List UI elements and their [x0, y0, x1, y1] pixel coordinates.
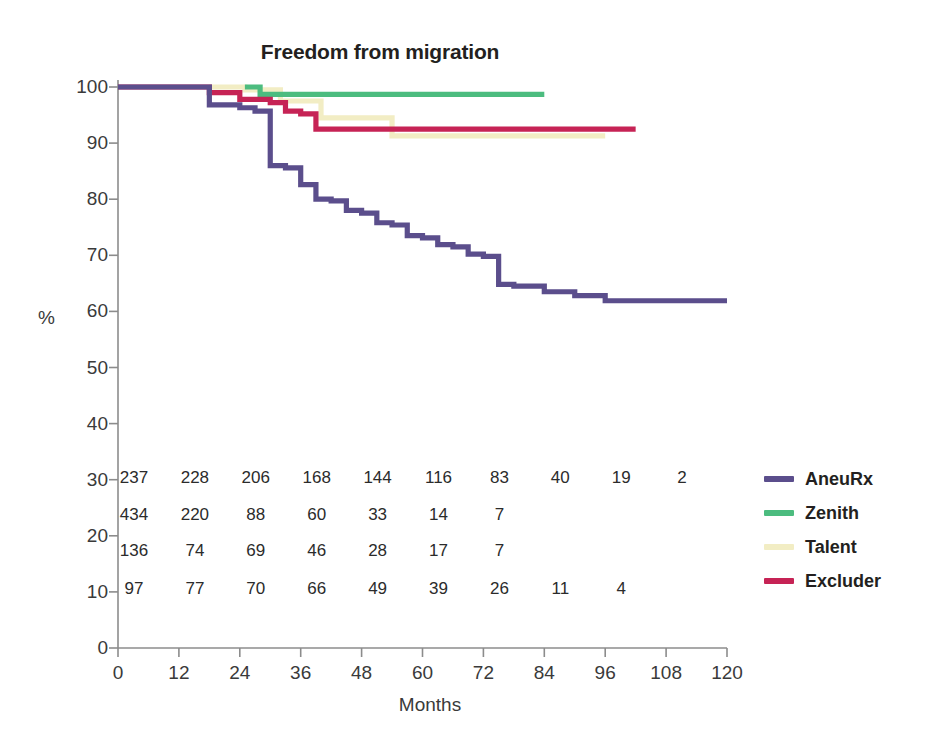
- risk-count-excluder-m72: 26: [490, 579, 509, 599]
- risk-count-excluder-m24: 70: [246, 579, 265, 599]
- legend-swatch-icon: [764, 476, 794, 482]
- risk-count-talent-m24: 69: [246, 541, 265, 561]
- risk-count-zenith-m12: 220: [181, 505, 209, 525]
- x-tick-label-72: 72: [473, 662, 494, 684]
- legend-label: Zenith: [805, 503, 859, 524]
- risk-count-talent-m0: 136: [120, 541, 148, 561]
- risk-count-aneurx-m60: 116: [425, 468, 452, 488]
- risk-count-zenith-m0: 434: [120, 505, 148, 525]
- risk-count-excluder-m0: 97: [125, 579, 144, 599]
- legend-label: AneuRx: [805, 469, 873, 490]
- legend-label: Excluder: [805, 571, 881, 592]
- y-tick-label-20: 20: [50, 525, 108, 547]
- risk-count-excluder-m36: 66: [307, 579, 326, 599]
- x-tick-label-12: 12: [168, 662, 189, 684]
- series-line-zenith: [245, 87, 544, 94]
- x-tick-label-24: 24: [229, 662, 250, 684]
- risk-count-talent-m36: 46: [307, 541, 326, 561]
- legend-item-zenith[interactable]: Zenith: [764, 496, 924, 530]
- y-tick-label-80: 80: [50, 188, 108, 210]
- data-series-group: [118, 87, 727, 301]
- y-tick-label-0: 0: [50, 637, 108, 659]
- risk-count-aneurx-m84: 40: [551, 468, 570, 488]
- y-tick-label-100: 100: [50, 76, 108, 98]
- x-axis-ticks: [118, 648, 727, 657]
- legend-label: Talent: [805, 537, 857, 558]
- x-tick-label-120: 120: [711, 662, 743, 684]
- risk-count-excluder-m84: 11: [551, 579, 569, 599]
- legend-item-talent[interactable]: Talent: [764, 530, 924, 564]
- risk-count-zenith-m48: 33: [368, 505, 387, 525]
- y-tick-label-40: 40: [50, 413, 108, 435]
- legend-swatch-icon: [764, 544, 794, 550]
- y-tick-label-10: 10: [50, 581, 108, 603]
- risk-count-excluder-m12: 77: [185, 579, 204, 599]
- chart-legend: AneuRxZenithTalentExcluder: [764, 462, 924, 598]
- legend-item-excluder[interactable]: Excluder: [764, 564, 924, 598]
- y-tick-label-70: 70: [50, 244, 108, 266]
- series-line-aneurx: [118, 87, 727, 301]
- risk-count-zenith-m60: 14: [429, 505, 448, 525]
- risk-count-talent-m12: 74: [185, 541, 204, 561]
- risk-count-excluder-m96: 4: [616, 579, 625, 599]
- y-tick-label-50: 50: [50, 357, 108, 379]
- y-axis-ticks: [109, 87, 118, 648]
- x-tick-label-108: 108: [650, 662, 682, 684]
- risk-count-zenith-m72: 7: [495, 505, 504, 525]
- y-tick-label-30: 30: [50, 469, 108, 491]
- x-tick-label-96: 96: [595, 662, 616, 684]
- risk-count-talent-m48: 28: [368, 541, 387, 561]
- legend-swatch-icon: [764, 578, 794, 584]
- axes: [109, 80, 727, 657]
- risk-count-excluder-m48: 49: [368, 579, 387, 599]
- risk-count-aneurx-m24: 206: [242, 468, 270, 488]
- y-tick-label-90: 90: [50, 132, 108, 154]
- risk-count-aneurx-m96: 19: [612, 468, 631, 488]
- risk-count-aneurx-m36: 168: [303, 468, 331, 488]
- legend-swatch-icon: [764, 510, 794, 516]
- x-tick-label-84: 84: [534, 662, 555, 684]
- y-tick-label-60: 60: [50, 300, 108, 322]
- risk-count-zenith-m36: 60: [307, 505, 326, 525]
- risk-count-talent-m60: 17: [429, 541, 448, 561]
- x-tick-label-0: 0: [113, 662, 124, 684]
- risk-count-aneurx-m12: 228: [181, 468, 209, 488]
- x-tick-label-60: 60: [412, 662, 433, 684]
- x-tick-label-48: 48: [351, 662, 372, 684]
- risk-count-talent-m72: 7: [495, 541, 504, 561]
- legend-item-aneurx[interactable]: AneuRx: [764, 462, 924, 496]
- risk-count-excluder-m60: 39: [429, 579, 448, 599]
- x-tick-label-36: 36: [290, 662, 311, 684]
- risk-count-zenith-m24: 88: [246, 505, 265, 525]
- risk-count-aneurx-m48: 144: [363, 468, 391, 488]
- risk-count-aneurx-m0: 237: [120, 468, 148, 488]
- chart-figure: Freedom from migration % Months 01020304…: [0, 0, 929, 741]
- risk-count-aneurx-m108: 2: [677, 468, 686, 488]
- plot-area: [0, 0, 929, 741]
- risk-count-aneurx-m72: 83: [490, 468, 509, 488]
